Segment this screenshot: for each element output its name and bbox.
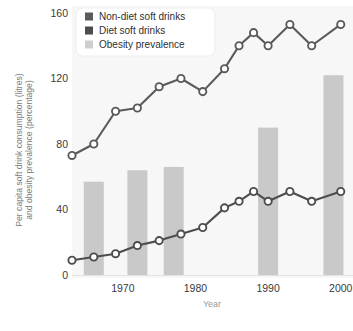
bar-obesity-1999 bbox=[323, 75, 343, 275]
data-point-nondiet-1966 bbox=[90, 140, 97, 147]
data-point-nondiet-1990 bbox=[265, 42, 272, 49]
data-point-diet-2000 bbox=[337, 188, 344, 195]
data-point-diet-1981 bbox=[199, 224, 206, 231]
bar-obesity-1972 bbox=[127, 170, 147, 275]
legend-label-2: Obesity prevalence bbox=[99, 39, 185, 50]
y-tick-160: 160 bbox=[50, 7, 68, 19]
data-point-diet-1984 bbox=[221, 204, 228, 211]
x-tick-1970: 1970 bbox=[111, 282, 135, 294]
data-point-nondiet-1986 bbox=[235, 42, 242, 49]
data-point-diet-1975 bbox=[156, 237, 163, 244]
data-point-nondiet-1996 bbox=[308, 42, 315, 49]
x-tick-2000: 2000 bbox=[329, 282, 353, 294]
legend-label-1: Diet soft drinks bbox=[99, 25, 165, 36]
data-point-diet-1978 bbox=[177, 230, 184, 237]
legend-swatch-1 bbox=[85, 27, 93, 35]
data-point-nondiet-1988 bbox=[250, 29, 257, 36]
y-tick-0: 0 bbox=[62, 269, 68, 281]
data-point-nondiet-1969 bbox=[112, 108, 119, 115]
y-axis-title-line2: and obesity prevalence (percentage) bbox=[24, 80, 34, 220]
soft-drink-obesity-chart: 04080120160 1970198019902000 Year Per ca… bbox=[0, 0, 353, 331]
x-tick-1980: 1980 bbox=[184, 282, 208, 294]
x-axis-title: Year bbox=[203, 299, 221, 309]
data-point-diet-1996 bbox=[308, 198, 315, 205]
data-point-diet-1990 bbox=[265, 198, 272, 205]
data-point-nondiet-2000 bbox=[337, 21, 344, 28]
y-axis-tick-labels: 04080120160 bbox=[50, 7, 68, 281]
data-point-nondiet-1981 bbox=[199, 88, 206, 95]
data-point-nondiet-1993 bbox=[286, 21, 293, 28]
legend-swatch-2 bbox=[85, 41, 93, 49]
legend-label-0: Non-diet soft drinks bbox=[99, 11, 185, 22]
data-point-diet-1988 bbox=[250, 188, 257, 195]
data-point-nondiet-1978 bbox=[177, 75, 184, 82]
chart-figure: 04080120160 1970198019902000 Year Per ca… bbox=[0, 0, 353, 331]
data-point-nondiet-1972 bbox=[134, 104, 141, 111]
data-point-diet-1966 bbox=[90, 253, 97, 260]
chart-legend: Non-diet soft drinksDiet soft drinksObes… bbox=[76, 8, 215, 56]
legend-swatch-0 bbox=[85, 13, 93, 21]
x-axis-tick-labels: 1970198019902000 bbox=[111, 282, 352, 294]
y-tick-40: 40 bbox=[56, 203, 68, 215]
y-tick-120: 120 bbox=[50, 72, 68, 84]
data-point-nondiet-1975 bbox=[156, 83, 163, 90]
x-tick-1990: 1990 bbox=[256, 282, 280, 294]
data-point-diet-1963 bbox=[68, 257, 75, 264]
data-point-diet-1986 bbox=[235, 198, 242, 205]
data-point-diet-1969 bbox=[112, 250, 119, 257]
data-point-diet-1972 bbox=[134, 242, 141, 249]
bar-obesity-1977 bbox=[164, 167, 184, 275]
y-tick-80: 80 bbox=[56, 138, 68, 150]
data-point-nondiet-1984 bbox=[221, 65, 228, 72]
data-point-diet-1993 bbox=[286, 188, 293, 195]
data-point-nondiet-1963 bbox=[68, 152, 75, 159]
y-axis-title: Per capita soft drink consumption (litre… bbox=[14, 73, 34, 226]
y-axis-title-line1: Per capita soft drink consumption (litre… bbox=[14, 73, 24, 226]
